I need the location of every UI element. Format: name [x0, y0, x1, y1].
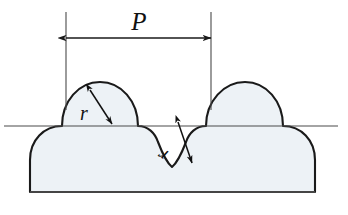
- knurl-body-outline: [30, 82, 315, 192]
- crest-radius-label: r: [80, 102, 88, 124]
- profile-drawing-canvas: P r r: [0, 0, 348, 215]
- pitch-label: P: [130, 8, 146, 35]
- knurl-profile-diagram: P r r: [0, 0, 348, 215]
